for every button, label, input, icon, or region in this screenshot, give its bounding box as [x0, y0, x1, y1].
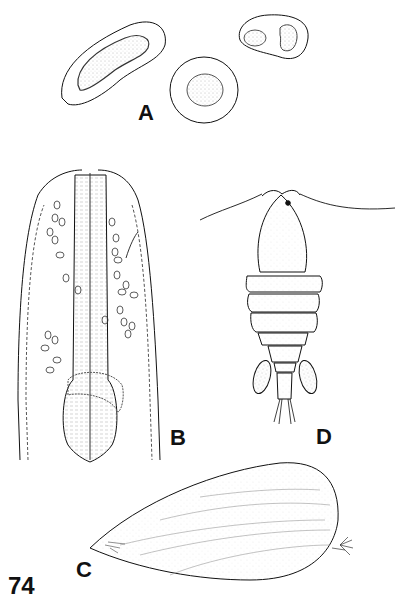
- panel-label-d: D: [316, 424, 332, 450]
- panel-label-b: B: [170, 425, 186, 451]
- panel-a-drawing: [62, 15, 309, 123]
- panel-label-a: A: [138, 100, 154, 126]
- panel-c-drawing: [90, 463, 353, 580]
- figure-number: 74: [8, 572, 35, 600]
- figure-plate: [0, 0, 418, 607]
- panel-label-c: C: [76, 557, 92, 583]
- panel-d-drawing: [200, 190, 395, 424]
- illustration-canvas: [0, 0, 418, 607]
- panel-b-drawing: [18, 170, 160, 462]
